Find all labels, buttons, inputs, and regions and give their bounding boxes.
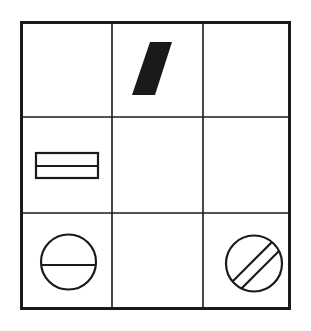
figure-matrix-canvas xyxy=(0,0,311,331)
matrix-svg xyxy=(0,0,311,331)
cell-r2c3[interactable] xyxy=(204,118,288,212)
cell-r3c2[interactable] xyxy=(113,214,202,308)
cell-r1c1[interactable] xyxy=(23,24,111,116)
cell-r1c3[interactable] xyxy=(204,24,288,116)
cell-r2c2[interactable] xyxy=(113,118,202,212)
cell-r3c3[interactable] xyxy=(204,214,288,308)
cell-r3c1[interactable] xyxy=(23,214,111,308)
